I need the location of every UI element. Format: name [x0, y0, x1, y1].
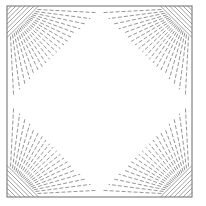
dashed-ray: [32, 174, 80, 188]
hatch-line: [7, 179, 25, 197]
dashed-ray: [32, 15, 80, 29]
dashed-ray: [109, 184, 164, 191]
dashed-ray: [27, 158, 64, 183]
hatch-line: [7, 6, 16, 15]
hatch-line: [188, 193, 193, 198]
dashed-ray: [16, 31, 30, 79]
hatch-line: [183, 188, 192, 197]
hatch-line: [170, 175, 193, 198]
square-frame: [7, 6, 192, 197]
hatch-line: [7, 6, 12, 11]
dashed-ray: [20, 27, 43, 66]
dashed-ray: [185, 37, 188, 96]
dashed-ray: [11, 108, 14, 167]
hatch-line: [7, 188, 16, 197]
dashed-ray: [36, 12, 91, 19]
dashed-ray: [131, 19, 171, 42]
dashed-ray: [36, 184, 91, 191]
dashed-ray: [153, 140, 178, 177]
dashed-ray: [169, 31, 183, 79]
dashed-ray: [29, 18, 71, 38]
dashed-ray: [27, 20, 64, 45]
dashed-ray: [157, 136, 180, 176]
dashed-ray: [103, 190, 162, 193]
hatch-line: [183, 6, 192, 15]
dashed-ray: [185, 108, 188, 167]
hatch-line: [174, 179, 192, 197]
dashed-ray: [29, 166, 71, 186]
dashed-ray: [28, 162, 67, 185]
dashed-ray: [11, 37, 14, 96]
dashed-ray: [119, 174, 167, 188]
dashed-ray: [135, 20, 172, 45]
dashed-ray: [179, 35, 186, 90]
dashed-ray: [19, 28, 39, 70]
hatch-line: [7, 6, 25, 24]
hatch-line: [7, 193, 12, 198]
dashed-ray: [13, 114, 20, 169]
dashed-ray: [20, 136, 43, 176]
hatch-line: [7, 175, 30, 198]
dashed-ray: [13, 35, 20, 90]
hatch-line: [174, 6, 192, 24]
corner-fan-diagram: [0, 0, 206, 206]
dashed-ray: [103, 10, 162, 13]
dashed-ray: [28, 19, 67, 42]
dashed-ray: [179, 114, 186, 169]
corner-fans: [7, 6, 192, 197]
dashed-ray: [161, 28, 181, 70]
hatch-line: [188, 6, 193, 11]
corner-fan-bottom-left: [7, 108, 96, 197]
dashed-ray: [169, 124, 183, 172]
hatch-line: [7, 6, 30, 29]
corner-fan-bottom-right: [103, 108, 192, 197]
dashed-ray: [157, 27, 180, 66]
dashed-ray: [161, 132, 181, 174]
dashed-ray: [38, 10, 97, 13]
dashed-ray: [38, 190, 97, 193]
corner-fan-top-left: [7, 6, 96, 95]
corner-fan-top-right: [103, 6, 192, 95]
dashed-ray: [131, 162, 171, 185]
dashed-ray: [109, 12, 164, 19]
dashed-ray: [127, 18, 169, 38]
dashed-ray: [135, 158, 172, 183]
dashed-ray: [19, 132, 39, 174]
dashed-ray: [119, 15, 167, 29]
dashed-ray: [21, 140, 46, 177]
dashed-ray: [153, 26, 178, 63]
dashed-ray: [21, 26, 46, 63]
dashed-ray: [127, 166, 169, 186]
hatch-line: [170, 6, 193, 29]
dashed-ray: [16, 124, 30, 172]
